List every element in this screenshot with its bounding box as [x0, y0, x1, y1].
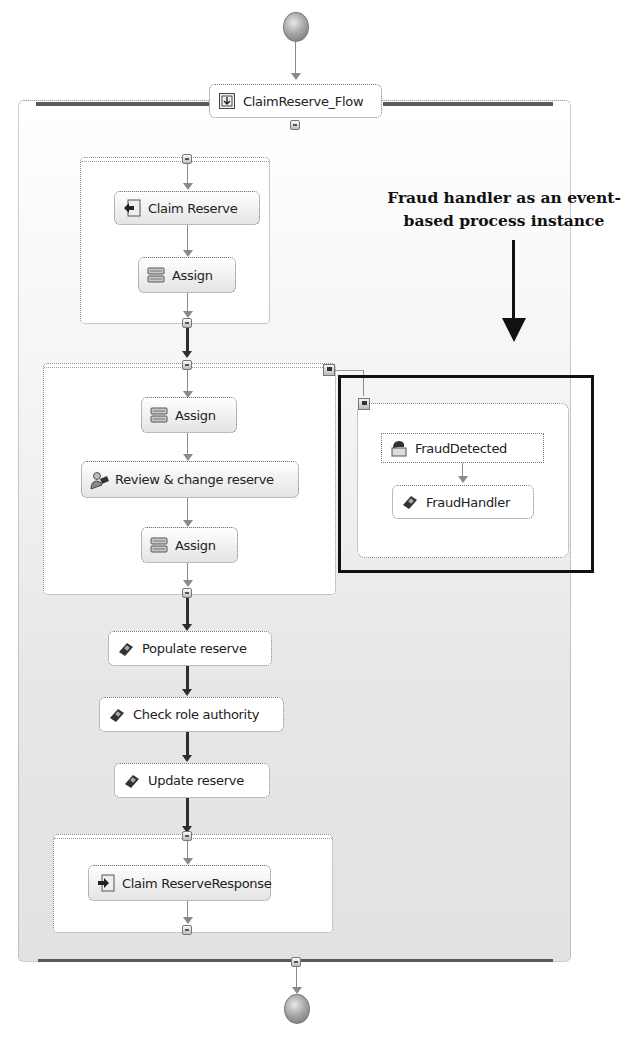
process-top-bar [383, 102, 553, 106]
collapse-toggle[interactable] [182, 925, 192, 935]
arrow-icon [183, 917, 193, 924]
node-label: Assign [175, 408, 216, 423]
invoke-node-check-role-authority[interactable]: Check role authority [99, 697, 284, 732]
receive-node-claim-reserve[interactable]: Claim Reserve [114, 191, 260, 225]
arrow-icon [291, 73, 301, 80]
arrow-icon [182, 689, 192, 696]
process-title: ClaimReserve_Flow [243, 94, 363, 109]
annotation-text: Fraud handler as an event- based process… [372, 186, 636, 232]
arrow-icon [183, 858, 193, 865]
arrow-icon [183, 311, 193, 318]
connector [186, 666, 189, 690]
assign-node[interactable]: Assign [141, 397, 237, 433]
assign-node[interactable]: Assign [138, 257, 236, 293]
process-top-bar [36, 102, 211, 106]
assign-icon [150, 406, 168, 424]
arrow-icon [182, 624, 192, 631]
handler-link [335, 370, 363, 371]
arrow-icon [183, 250, 193, 257]
human-task-icon [90, 471, 108, 489]
collapse-toggle[interactable] [182, 588, 192, 598]
annotation-line-1: Fraud handler as an event- [372, 186, 636, 209]
arrow-icon [183, 580, 193, 587]
node-label: Assign [172, 268, 213, 283]
reply-node-claim-reserve-response[interactable]: Claim ReserveResponse [88, 865, 271, 901]
arrow-icon [183, 454, 193, 461]
arrow-icon [182, 755, 192, 762]
annotation-line-2: based process instance [372, 209, 636, 232]
node-label: Update reserve [148, 773, 244, 788]
collapse-toggle[interactable] [182, 360, 192, 370]
invoke-icon [117, 640, 135, 658]
connector [186, 328, 189, 353]
node-label: Claim ReserveResponse [122, 876, 271, 891]
annotation-arrow-head-icon [502, 318, 526, 342]
human-task-node-review[interactable]: Review & change reserve [81, 461, 299, 498]
collapse-toggle[interactable] [182, 154, 192, 164]
node-label: Assign [175, 538, 216, 553]
invoke-node-populate-reserve[interactable]: Populate reserve [108, 631, 272, 666]
invoke-icon [108, 706, 126, 724]
arrow-icon [183, 183, 193, 190]
event-handler-flag-icon[interactable] [323, 364, 335, 376]
arrow-icon [292, 987, 302, 994]
annotation-arrow [512, 240, 515, 320]
process-title-node[interactable]: ClaimReserve_Flow [209, 84, 382, 118]
scope-receive [80, 157, 270, 324]
collapse-toggle[interactable] [182, 318, 192, 328]
collapse-toggle[interactable] [182, 831, 192, 841]
arrow-icon [183, 520, 193, 527]
collapse-toggle[interactable] [291, 957, 301, 967]
arrow-icon [182, 351, 192, 358]
assign-icon [147, 266, 165, 284]
end-event[interactable] [284, 994, 310, 1024]
node-label: Check role authority [133, 707, 259, 722]
assign-node[interactable]: Assign [141, 527, 238, 563]
collapse-toggle[interactable] [290, 120, 300, 130]
connector [187, 225, 188, 253]
node-label: Review & change reserve [115, 472, 274, 487]
start-event[interactable] [283, 12, 309, 42]
assign-icon [150, 536, 168, 554]
invoke-node-update-reserve[interactable]: Update reserve [114, 763, 270, 798]
process-icon [218, 92, 236, 110]
receive-icon [123, 199, 141, 217]
node-label: Populate reserve [142, 641, 247, 656]
node-label: Claim Reserve [148, 201, 237, 216]
connector [186, 732, 189, 756]
reply-icon [97, 874, 115, 892]
invoke-icon [123, 772, 141, 790]
annotation-highlight-box [338, 375, 594, 573]
connector [186, 598, 189, 626]
